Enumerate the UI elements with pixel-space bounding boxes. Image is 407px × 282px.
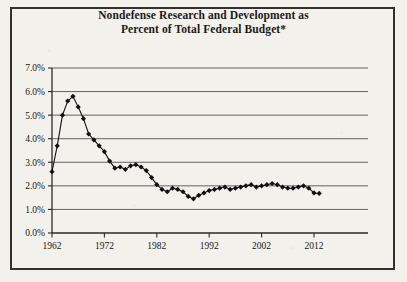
x-axis-tick-label: 1982 <box>147 241 166 251</box>
data-point-marker <box>133 162 138 167</box>
gridlines-group <box>52 68 368 209</box>
y-axis-tick-label: 4.0% <box>25 134 45 144</box>
data-point-marker <box>269 181 274 186</box>
data-point-marker <box>212 187 217 192</box>
data-point-marker <box>60 113 65 118</box>
line-chart: 0.0%1.0%2.0%3.0%4.0%5.0%6.0%7.0% 1962197… <box>0 0 407 282</box>
y-axis-tick-label: 5.0% <box>25 111 45 121</box>
x-axis-tick-label: 2012 <box>305 241 324 251</box>
x-axis-tick-label: 1992 <box>200 241 219 251</box>
data-point-marker <box>275 182 280 187</box>
x-axis-tick-marks <box>52 233 314 238</box>
data-point-marker <box>222 184 227 189</box>
data-point-marker <box>55 143 60 148</box>
y-axis-tick-label: 6.0% <box>25 87 45 97</box>
data-point-marker <box>49 169 54 174</box>
y-axis-tick-label: 2.0% <box>25 181 45 191</box>
x-axis-tick-labels: 196219721982199220022012 <box>43 241 324 251</box>
data-point-marker <box>301 183 306 188</box>
data-point-marker <box>290 186 295 191</box>
x-axis-tick-label: 1972 <box>95 241 114 251</box>
data-point-marker <box>264 182 269 187</box>
series-line-nondefense-rd <box>52 96 319 199</box>
y-axis-tick-label: 1.0% <box>25 205 45 215</box>
data-point-marker <box>118 164 123 169</box>
data-point-marker <box>296 184 301 189</box>
data-point-marker <box>249 182 254 187</box>
data-point-marker <box>317 191 322 196</box>
data-point-marker <box>228 187 233 192</box>
x-axis-tick-label: 1962 <box>43 241 62 251</box>
data-point-marker <box>175 187 180 192</box>
data-point-marker <box>280 184 285 189</box>
data-point-marker <box>207 188 212 193</box>
data-point-marker <box>238 184 243 189</box>
y-axis-tick-label: 0.0% <box>25 228 45 238</box>
series-markers-group <box>49 94 321 202</box>
data-point-marker <box>285 186 290 191</box>
data-point-marker <box>81 116 86 121</box>
data-point-marker <box>76 104 81 109</box>
x-axis-tick-label: 2002 <box>252 241 271 251</box>
data-point-marker <box>201 190 206 195</box>
y-axis-tick-label: 7.0% <box>25 63 45 73</box>
data-point-marker <box>243 183 248 188</box>
data-point-marker <box>259 183 264 188</box>
y-axis-tick-labels: 0.0%1.0%2.0%3.0%4.0%5.0%6.0%7.0% <box>25 63 45 238</box>
data-point-marker <box>217 186 222 191</box>
data-point-marker <box>233 186 238 191</box>
y-axis-tick-label: 3.0% <box>25 158 45 168</box>
data-point-marker <box>254 184 259 189</box>
